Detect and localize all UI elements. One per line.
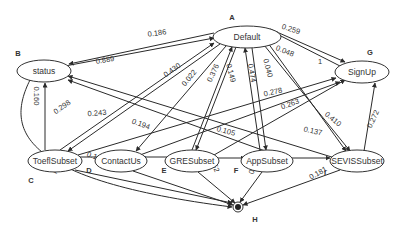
- edge-label-f-a: 0.474: [246, 63, 258, 83]
- node-label-i: SEVISSubset: [331, 156, 383, 166]
- edge-b-a: [65, 38, 214, 66]
- edge-a-i: [264, 45, 350, 151]
- edge-label-a-b: 0.186: [147, 27, 167, 39]
- node-h: H: [233, 202, 258, 224]
- state-transition-diagram: 0.1860.8890.4300.0220.3760.1490.4740.040…: [0, 0, 407, 235]
- node-letter-g: G: [367, 48, 373, 57]
- diagram-canvas: 0.1860.8890.4300.0220.3760.1490.4740.040…: [0, 0, 407, 235]
- edge-label-a-f: 0.040: [261, 58, 275, 78]
- edge-label-a-i: 0.410: [323, 110, 343, 129]
- edge-c-h: [75, 170, 232, 203]
- node-label-f: AppSubset: [246, 156, 288, 166]
- node-letter-h: H: [252, 215, 257, 224]
- edge-label-f-i: 0.137: [303, 125, 323, 138]
- edge-label-d-g: 0.263: [280, 97, 301, 112]
- edge-label-a-g: 1: [318, 57, 322, 66]
- edge-label-c-d: 0.194: [131, 117, 152, 132]
- node-c: ToeflSubsetC: [28, 150, 82, 185]
- edge-label-b-a: 0.889: [95, 54, 115, 66]
- edge-label-i-g: 0.272: [365, 109, 381, 130]
- node-label-c: ToeflSubset: [33, 156, 78, 166]
- node-letter-d: D: [86, 166, 92, 175]
- edge-b-h: [21, 80, 232, 207]
- node-label-b: status: [33, 66, 56, 76]
- node-label-e: GRESubset: [170, 156, 216, 166]
- node-e: GRESubsetE: [161, 150, 219, 175]
- edge-label-c-b: 0.298: [52, 98, 73, 116]
- edge-label-b-h: 0.160: [32, 87, 41, 106]
- node-f: AppSubsetF: [234, 150, 293, 175]
- edge-a-b: [69, 33, 214, 64]
- edge-f-h: [240, 172, 262, 202]
- node-letter-f: F: [234, 166, 239, 175]
- node-g: SignUpG: [335, 48, 389, 84]
- edge-c-a: [60, 43, 214, 150]
- edge-d-g: [140, 82, 340, 155]
- edge-label-i-b: 0.243: [87, 108, 106, 119]
- edge-e-h: [198, 172, 235, 203]
- edge-label-c-g: 0.278: [263, 86, 283, 99]
- edge-label-a-g: 0.259: [281, 22, 302, 36]
- edge-a-i-2: [268, 43, 346, 151]
- node-letter-e: E: [161, 166, 166, 175]
- node-label-a: Default: [234, 32, 262, 42]
- node-b: statusB: [15, 49, 71, 83]
- edge-label-a-c: 0.430: [162, 61, 183, 79]
- node-letter-c: C: [28, 176, 34, 185]
- node-label-d: ContactUs: [101, 156, 141, 166]
- node-a: DefaultA: [213, 13, 281, 49]
- node-label-g: SignUp: [348, 67, 376, 77]
- node-letter-b: B: [15, 49, 21, 58]
- node-letter-a: A: [229, 13, 235, 22]
- final-state-dot: [235, 204, 241, 210]
- node-letter-i: I: [324, 168, 326, 177]
